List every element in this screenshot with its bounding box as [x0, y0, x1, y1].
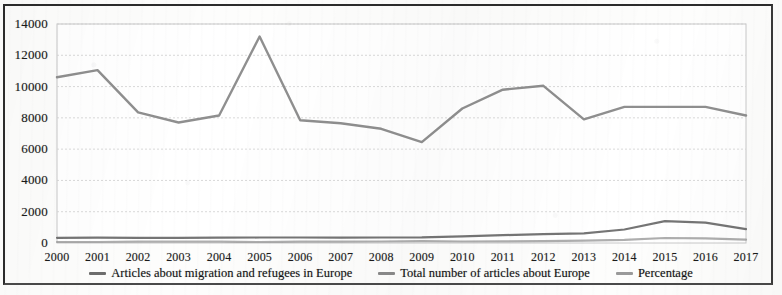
legend-label: Articles about migration and refugees in… — [111, 266, 352, 281]
legend-color-swatch — [89, 272, 106, 275]
x-axis-tick-label: 2005 — [247, 250, 272, 265]
chart-legend: Articles about migration and refugees in… — [0, 266, 782, 281]
legend-label: Percentage — [638, 266, 693, 281]
y-axis-tick-label: 10000 — [15, 79, 49, 95]
x-axis-tick-label: 2015 — [653, 250, 678, 265]
y-axis-tick-label: 4000 — [21, 172, 48, 188]
x-axis-tick-label: 2007 — [328, 250, 353, 265]
x-axis-tick-label: 2013 — [571, 250, 596, 265]
y-axis-tick-label: 8000 — [21, 110, 48, 126]
y-axis-tick-label: 2000 — [21, 204, 48, 220]
x-axis-tick-label: 2012 — [531, 250, 556, 265]
x-axis-tick-label: 2011 — [491, 250, 515, 265]
legend-label: Total number of articles about Europe — [400, 266, 590, 281]
y-axis-tick-label: 12000 — [15, 47, 49, 63]
x-axis-tick-label: 2000 — [45, 250, 70, 265]
legend-entry[interactable]: Percentage — [616, 266, 693, 281]
legend-entry[interactable]: Articles about migration and refugees in… — [89, 266, 352, 281]
plot-frame — [57, 24, 746, 243]
x-axis-tick-label: 2006 — [288, 250, 313, 265]
x-axis-tick-label: 2002 — [126, 250, 151, 265]
x-axis-tick-label: 2014 — [612, 250, 637, 265]
plot-area: 02000400060008000100001200014000 2000200… — [0, 0, 782, 295]
legend-color-swatch — [378, 272, 395, 275]
x-axis-tick-label: 2009 — [409, 250, 434, 265]
x-axis-tick-label: 2008 — [369, 250, 394, 265]
x-axis-tick-label: 2001 — [85, 250, 110, 265]
x-axis-tick-label: 2003 — [166, 250, 191, 265]
x-axis-tick-label: 2017 — [734, 250, 759, 265]
legend-entry[interactable]: Total number of articles about Europe — [378, 266, 590, 281]
chart-figure: 02000400060008000100001200014000 2000200… — [0, 0, 782, 295]
x-axis-tick-label: 2004 — [207, 250, 232, 265]
y-axis-tick-label: 6000 — [21, 141, 48, 157]
legend-color-swatch — [616, 272, 633, 275]
x-axis-tick-label: 2010 — [450, 250, 475, 265]
y-axis-tick-label: 0 — [41, 235, 48, 251]
x-axis-tick-label: 2016 — [693, 250, 718, 265]
y-axis-tick-label: 14000 — [15, 16, 49, 32]
